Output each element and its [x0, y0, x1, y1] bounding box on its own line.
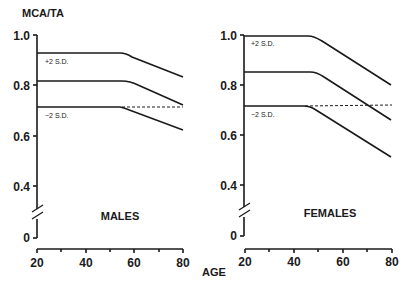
svg-text:60: 60 [336, 255, 350, 269]
svg-text:0.8: 0.8 [220, 79, 237, 93]
svg-text:0: 0 [230, 229, 237, 243]
svg-text:0.6: 0.6 [13, 130, 30, 144]
svg-text:80: 80 [385, 255, 399, 269]
label-minus-2sd: −2 S.D. [45, 112, 69, 119]
svg-text:1.0: 1.0 [13, 29, 30, 43]
series-mean [37, 81, 183, 105]
series-plus-2sd [37, 53, 183, 77]
svg-text:40: 40 [287, 255, 301, 269]
svg-text:0.4: 0.4 [220, 179, 237, 193]
svg-text:0.8: 0.8 [13, 79, 30, 93]
svg-text:40: 40 [79, 256, 93, 270]
x-axis-title: AGE [202, 266, 226, 278]
panel-title-females: FEMALES [304, 207, 357, 219]
svg-text:20: 20 [30, 256, 44, 270]
label-plus-2sd: +2 S.D. [45, 58, 69, 65]
y-axis-title: MCA/TA [22, 7, 64, 19]
panel-females-labels: 1.0 0.8 0.6 0.4 0 20 40 60 80 +2 S.D. −2… [220, 29, 399, 269]
reference-dashed-line [305, 105, 392, 106]
panel-males-labels: 1.0 0.8 0.6 0.4 0 20 40 60 80 +2 S.D. −2… [13, 29, 190, 270]
svg-text:0: 0 [23, 231, 30, 245]
label-plus-2sd: +2 S.D. [251, 40, 275, 47]
panel-females [239, 35, 392, 253]
svg-text:80: 80 [176, 256, 190, 270]
panel-title-males: MALES [101, 210, 140, 222]
chart-figure: MCA/TA 1.0 0.8 0.6 [0, 0, 410, 286]
svg-text:20: 20 [238, 255, 252, 269]
svg-text:0.6: 0.6 [220, 129, 237, 143]
svg-text:60: 60 [127, 256, 141, 270]
svg-text:0.4: 0.4 [13, 180, 30, 194]
label-minus-2sd: −2 S.D. [251, 111, 275, 118]
svg-text:1.0: 1.0 [220, 29, 237, 43]
